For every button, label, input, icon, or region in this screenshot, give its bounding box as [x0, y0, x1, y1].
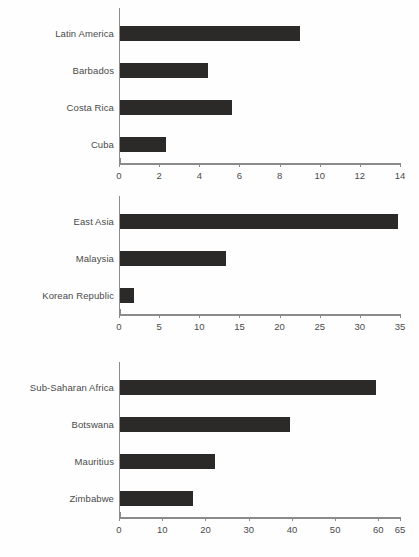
axis-tick: [159, 314, 160, 318]
category-label: Korean Republic: [42, 290, 120, 301]
axis-tick-label: 10: [157, 524, 168, 535]
axis-tick-label: 6: [237, 170, 242, 181]
bar: [120, 380, 376, 395]
axis-tick-label: 35: [395, 321, 406, 332]
bar: [120, 214, 398, 229]
plot-area-2: East AsiaMalaysiaKorean Republic 0510152…: [119, 196, 400, 316]
bar-row: Barbados: [120, 52, 400, 89]
axis-tick: [292, 517, 293, 521]
axis-tick-label: 40: [287, 524, 298, 535]
bars-container-3: Sub-Saharan AfricaBotswanaMauritiusZimba…: [119, 362, 400, 517]
category-label: Malaysia: [76, 253, 120, 264]
axis-tick-label: 30: [243, 524, 254, 535]
axis-tick: [360, 163, 361, 167]
category-label: Sub-Saharan Africa: [30, 382, 120, 393]
axis-tick: [400, 517, 401, 521]
category-label: Latin America: [55, 28, 120, 39]
axis-tick-label: 10: [314, 170, 325, 181]
scanned-page: Latin AmericaBarbadosCosta RicaCuba 0246…: [0, 0, 419, 557]
axis-tick-label: 8: [277, 170, 282, 181]
bar: [120, 417, 290, 432]
axis-tick-label: 10: [194, 321, 205, 332]
axis-tick-label: 5: [156, 321, 161, 332]
x-axis-2: 05101520253035: [119, 314, 400, 316]
bar: [120, 100, 232, 115]
plot-area-3: Sub-Saharan AfricaBotswanaMauritiusZimba…: [119, 362, 400, 519]
axis-tick: [119, 517, 120, 521]
bar-row: Korean Republic: [120, 277, 400, 314]
bar-row: East Asia: [120, 203, 400, 240]
plot-area-1: Latin AmericaBarbadosCosta RicaCuba 0246…: [119, 8, 400, 165]
bar: [120, 63, 208, 78]
bar-row: Zimbabwe: [120, 480, 400, 517]
axis-tick-label: 50: [330, 524, 341, 535]
axis-tick-label: 20: [274, 321, 285, 332]
axis-tick: [335, 517, 336, 521]
bar: [120, 137, 166, 152]
axis-tick: [162, 517, 163, 521]
bar: [120, 251, 226, 266]
bar: [120, 454, 215, 469]
bar: [120, 491, 193, 506]
axis-tick-label: 60: [373, 524, 384, 535]
axis-tick-label: 65: [395, 524, 406, 535]
x-axis-1: 02468101214: [119, 163, 400, 165]
category-label: Mauritius: [75, 456, 120, 467]
category-label: Barbados: [73, 65, 120, 76]
axis-tick-label: 14: [395, 170, 406, 181]
bar-row: Cuba: [120, 126, 400, 163]
axis-tick-label: 25: [314, 321, 325, 332]
axis-tick-label: 0: [116, 170, 121, 181]
category-label: Costa Rica: [67, 102, 120, 113]
axis-tick: [249, 517, 250, 521]
axis-tick-label: 0: [116, 321, 121, 332]
axis-tick: [378, 517, 379, 521]
axis-tick: [400, 314, 401, 318]
bar-row: Latin America: [120, 15, 400, 52]
axis-tick-label: 30: [355, 321, 366, 332]
bars-container-2: East AsiaMalaysiaKorean Republic: [119, 196, 400, 314]
axis-tick: [360, 314, 361, 318]
axis-tick-label: 0: [116, 524, 121, 535]
axis-tick-label: 15: [234, 321, 245, 332]
bar: [120, 26, 300, 41]
bar-row: Botswana: [120, 406, 400, 443]
axis-tick: [119, 314, 120, 318]
axis-tick: [400, 163, 401, 167]
axis-tick-label: 4: [197, 170, 202, 181]
axis-tick: [119, 163, 120, 167]
axis-tick: [280, 314, 281, 318]
axis-tick: [239, 163, 240, 167]
axis-tick: [199, 163, 200, 167]
bar-row: Mauritius: [120, 443, 400, 480]
bar: [120, 288, 134, 303]
x-axis-3: 010203040506065: [119, 517, 400, 519]
axis-tick: [205, 517, 206, 521]
category-label: Cuba: [91, 139, 120, 150]
bar-row: Malaysia: [120, 240, 400, 277]
bar-row: Costa Rica: [120, 89, 400, 126]
axis-tick: [159, 163, 160, 167]
axis-tick: [320, 163, 321, 167]
bars-container-1: Latin AmericaBarbadosCosta RicaCuba: [119, 8, 400, 163]
axis-tick: [199, 314, 200, 318]
axis-tick: [320, 314, 321, 318]
bar-row: Sub-Saharan Africa: [120, 369, 400, 406]
bar-chart-latin-america: Latin AmericaBarbadosCosta RicaCuba 0246…: [0, 8, 419, 186]
axis-tick: [280, 163, 281, 167]
category-label: Botswana: [71, 419, 120, 430]
axis-tick-label: 20: [200, 524, 211, 535]
category-label: East Asia: [73, 216, 120, 227]
bar-chart-east-asia: East AsiaMalaysiaKorean Republic 0510152…: [0, 196, 419, 344]
axis-tick: [239, 314, 240, 318]
category-label: Zimbabwe: [69, 493, 120, 504]
axis-tick-label: 2: [156, 170, 161, 181]
axis-tick-label: 12: [355, 170, 366, 181]
bar-chart-sub-saharan-africa: Sub-Saharan AfricaBotswanaMauritiusZimba…: [0, 362, 419, 552]
